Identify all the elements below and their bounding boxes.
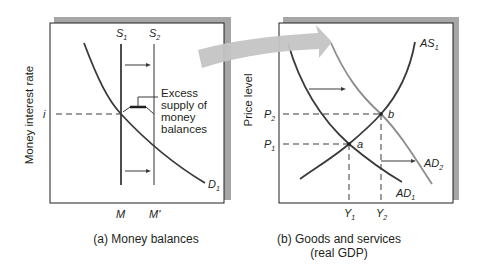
y1-label: Y1 [344,207,355,221]
equilibrium-point-b [379,112,383,116]
m-prime-label: M' [149,208,161,220]
p1-label: P1 [264,138,275,152]
p2-label: P2 [264,108,275,122]
point-a-label: a [357,138,363,150]
panel-b-caption-line1: (b) Goods and services [277,232,401,246]
interest-rate-i-label: i [43,108,46,120]
panel-b-goods-and-services: AS1 AD2 AD1 a b P2 P1 Y1 Y2 Price level … [242,17,459,260]
panel-b-y-axis-label: Price level [242,73,254,126]
panel-a-caption: (a) Money balances [93,232,198,246]
y2-label: Y2 [376,207,387,221]
m-label: M [116,208,126,220]
equilibrium-point-a [347,142,351,146]
panel-b-caption-line2: (real GDP) [310,246,367,260]
point-b-label: b [388,108,394,120]
panel-a-y-axis-label: Money interest rate [23,66,35,164]
